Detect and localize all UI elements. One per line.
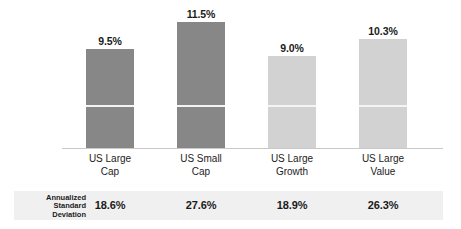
category-label-3-line-1: Value	[337, 165, 429, 178]
category-label-2-line-0: US Large	[246, 152, 338, 165]
bar-chart: 9.5% 11.5% 9.0% 10.3% US Larg	[0, 0, 461, 229]
axis-baseline	[62, 148, 443, 149]
bar-value-label-2: 9.0%	[280, 42, 304, 54]
bar-split-line-2	[268, 105, 316, 107]
category-label-3: US Large Value	[337, 152, 429, 178]
category-label-0-line-0: US Large	[64, 152, 156, 165]
bar-rect-3[interactable]	[359, 39, 407, 148]
stat-row-label-line-2: Deviation	[14, 211, 86, 219]
bar-rect-0[interactable]	[86, 49, 134, 148]
category-label-1: US Small Cap	[155, 152, 247, 178]
stat-value-1: 27.6%	[155, 199, 247, 211]
annualized-standard-deviation-row: Annualized Standard Deviation 18.6% 27.6…	[14, 191, 443, 220]
stat-value-2: 18.9%	[246, 199, 338, 211]
category-axis-labels: US Large Cap US Small Cap US Large Growt…	[0, 152, 461, 188]
category-label-2: US Large Growth	[246, 152, 338, 178]
bar-value-label-1: 11.5%	[187, 8, 216, 20]
plot-area: 9.5% 11.5% 9.0% 10.3%	[0, 0, 461, 150]
stat-value-0: 18.6%	[64, 199, 156, 211]
bar-value-label-0: 9.5%	[98, 35, 122, 47]
category-label-1-line-0: US Small	[155, 152, 247, 165]
category-label-0-line-1: Cap	[64, 165, 156, 178]
category-label-2-line-1: Growth	[246, 165, 338, 178]
stat-value-3: 26.3%	[337, 199, 429, 211]
bar-value-label-3: 10.3%	[368, 25, 397, 37]
bar-split-line-3	[359, 105, 407, 107]
category-label-3-line-0: US Large	[337, 152, 429, 165]
bar-split-line-1	[177, 105, 225, 107]
category-label-0: US Large Cap	[64, 152, 156, 178]
bar-split-line-0	[86, 105, 134, 107]
bar-rect-1[interactable]	[177, 22, 225, 148]
bar-rect-2[interactable]	[268, 56, 316, 148]
category-label-1-line-1: Cap	[155, 165, 247, 178]
